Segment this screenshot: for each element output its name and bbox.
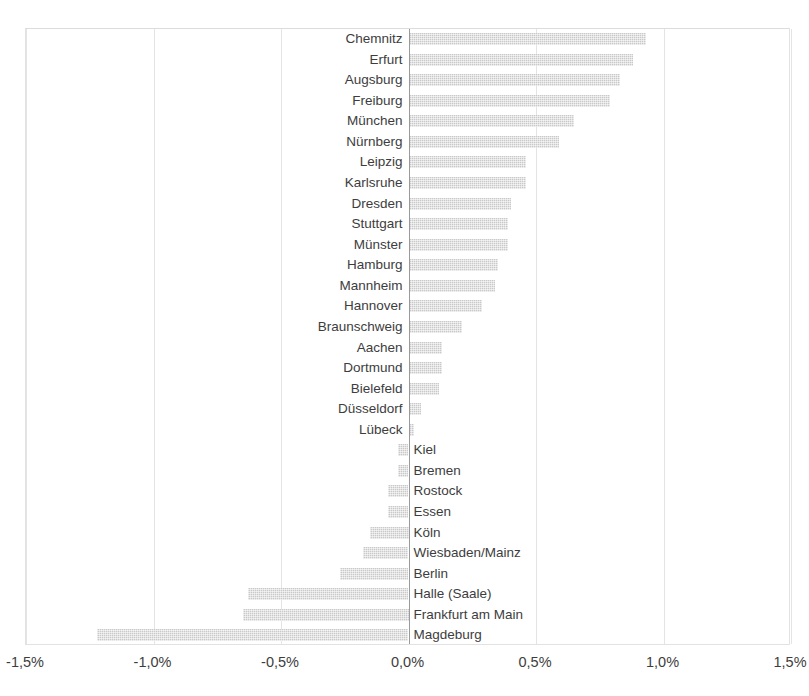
chart-row: Stuttgart xyxy=(26,214,789,235)
chart-row: Freiburg xyxy=(26,91,789,112)
x-tick-label: -1,0% xyxy=(134,652,172,672)
category-label: Aachen xyxy=(357,339,403,357)
chart-row: Bremen xyxy=(26,461,789,482)
plot-area: ChemnitzErfurtAugsburgFreiburgMünchenNür… xyxy=(25,28,790,645)
chart-row: Chemnitz xyxy=(26,29,789,50)
category-label: Erfurt xyxy=(369,51,402,69)
bar xyxy=(409,156,526,168)
bar xyxy=(388,485,408,497)
x-axis: -1,5%-1,0%-0,5%0,0%0,5%1,0%1,5% xyxy=(0,652,809,682)
category-label: Münster xyxy=(354,236,403,254)
category-label: Nürnberg xyxy=(346,133,402,151)
bar xyxy=(409,95,610,107)
chart-row: Frankfurt am Main xyxy=(26,605,789,626)
chart-row: Wiesbaden/Mainz xyxy=(26,543,789,564)
x-tick-label: -1,5% xyxy=(6,652,44,672)
category-label: Wiesbaden/Mainz xyxy=(414,544,521,562)
category-label: Düsseldorf xyxy=(338,400,403,418)
chart-row: Rostock xyxy=(26,481,789,502)
chart-row: Leipzig xyxy=(26,152,789,173)
bar xyxy=(398,444,408,456)
chart-row: Augsburg xyxy=(26,70,789,91)
chart-row: Lübeck xyxy=(26,420,789,441)
x-tick-label: 1,5% xyxy=(773,652,806,672)
bar xyxy=(409,383,440,395)
category-label: Köln xyxy=(414,524,441,542)
bar xyxy=(409,239,508,251)
bar xyxy=(409,403,422,415)
bar xyxy=(409,342,442,354)
chart-row: München xyxy=(26,111,789,132)
category-label: Berlin xyxy=(414,565,449,583)
category-label: Augsburg xyxy=(345,71,403,89)
category-label: Dortmund xyxy=(343,359,402,377)
category-label: Chemnitz xyxy=(345,30,402,48)
x-tick-label: 1,0% xyxy=(646,652,679,672)
bar xyxy=(409,54,633,66)
bar xyxy=(409,280,496,292)
chart-row: Nürnberg xyxy=(26,132,789,153)
bar xyxy=(409,115,575,127)
chart-row: Köln xyxy=(26,523,789,544)
category-label: Mannheim xyxy=(339,277,402,295)
category-label: Rostock xyxy=(414,482,463,500)
category-label: München xyxy=(347,112,403,130)
chart-row: Halle (Saale) xyxy=(26,584,789,605)
bar xyxy=(409,33,646,45)
bar xyxy=(409,136,559,148)
category-label: Stuttgart xyxy=(351,215,402,233)
chart-row: Karlsruhe xyxy=(26,173,789,194)
category-label: Halle (Saale) xyxy=(414,585,492,603)
bar-chart: ChemnitzErfurtAugsburgFreiburgMünchenNür… xyxy=(0,0,809,696)
category-label: Leipzig xyxy=(360,153,403,171)
category-label: Kiel xyxy=(414,441,437,459)
bar xyxy=(388,506,408,518)
bar xyxy=(243,609,409,621)
category-label: Bremen xyxy=(414,462,461,480)
chart-row: Essen xyxy=(26,502,789,523)
bar xyxy=(409,218,508,230)
bar xyxy=(409,321,463,333)
category-label: Freiburg xyxy=(352,92,402,110)
bar xyxy=(97,629,408,641)
bar xyxy=(398,465,408,477)
bar xyxy=(248,588,409,600)
chart-row: Mannheim xyxy=(26,276,789,297)
bar xyxy=(340,568,409,580)
category-label: Frankfurt am Main xyxy=(414,606,524,624)
chart-row: Braunschweig xyxy=(26,317,789,338)
gridline-6 xyxy=(791,29,792,644)
chart-row: Münster xyxy=(26,235,789,256)
category-label: Lübeck xyxy=(359,421,403,439)
zero-axis-line xyxy=(409,29,410,644)
x-tick-label: 0,5% xyxy=(518,652,551,672)
chart-row: Berlin xyxy=(26,564,789,585)
bar xyxy=(409,177,526,189)
category-label: Dresden xyxy=(351,195,402,213)
bar xyxy=(409,300,483,312)
category-label: Braunschweig xyxy=(318,318,403,336)
category-label: Karlsruhe xyxy=(345,174,403,192)
bar xyxy=(363,547,409,559)
category-label: Bielefeld xyxy=(351,380,403,398)
chart-rows: ChemnitzErfurtAugsburgFreiburgMünchenNür… xyxy=(26,29,789,644)
chart-row: Dortmund xyxy=(26,358,789,379)
chart-row: Düsseldorf xyxy=(26,399,789,420)
bar xyxy=(370,527,408,539)
bar xyxy=(409,198,511,210)
category-label: Hamburg xyxy=(347,256,403,274)
bar xyxy=(409,362,442,374)
chart-row: Erfurt xyxy=(26,50,789,71)
x-tick-label: -0,5% xyxy=(261,652,299,672)
chart-row: Hamburg xyxy=(26,255,789,276)
bar xyxy=(409,259,498,271)
category-label: Hannover xyxy=(344,297,403,315)
chart-row: Kiel xyxy=(26,440,789,461)
bar xyxy=(409,74,621,86)
chart-row: Aachen xyxy=(26,338,789,359)
chart-row: Hannover xyxy=(26,296,789,317)
category-label: Magdeburg xyxy=(414,626,482,644)
category-label: Essen xyxy=(414,503,452,521)
chart-row: Bielefeld xyxy=(26,379,789,400)
x-tick-label: 0,0% xyxy=(391,652,424,672)
